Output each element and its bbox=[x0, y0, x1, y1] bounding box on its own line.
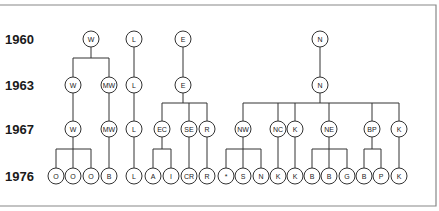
node-k76a: K bbox=[270, 168, 286, 184]
node-r67: R bbox=[199, 121, 215, 137]
node-label: BP bbox=[367, 126, 377, 133]
node-e63: E bbox=[175, 77, 191, 93]
node-b76b: B bbox=[304, 168, 320, 184]
genealogy-diagram: WLENWMWLENWMWLECSERNWNCKNEBPKOOOBLAICRR*… bbox=[0, 0, 439, 211]
year-label-1960: 1960 bbox=[5, 32, 34, 47]
node-label: N bbox=[317, 36, 322, 43]
node-label: I bbox=[170, 173, 172, 180]
node-label: EC bbox=[157, 126, 167, 133]
node-i76: I bbox=[163, 168, 179, 184]
node-label: K bbox=[293, 173, 298, 180]
node-label: B bbox=[362, 173, 367, 180]
node-label: P bbox=[379, 173, 384, 180]
node-label: SE bbox=[184, 126, 194, 133]
year-labels: 1960 1963 1967 1976 bbox=[5, 32, 34, 184]
node-g76: G bbox=[339, 168, 355, 184]
node-label: R bbox=[204, 173, 209, 180]
node-cr76: CR bbox=[181, 168, 197, 184]
node-nc67: NC bbox=[270, 121, 286, 137]
node-o76a: O bbox=[48, 168, 64, 184]
node-label: NE bbox=[324, 126, 334, 133]
node-label: MW bbox=[103, 126, 116, 133]
node-label: G bbox=[344, 173, 349, 180]
node-label: K bbox=[276, 173, 281, 180]
node-label: K bbox=[397, 173, 402, 180]
node-l60: L bbox=[126, 31, 142, 47]
node-b76a: B bbox=[101, 168, 117, 184]
node-label: W bbox=[70, 82, 77, 89]
node-label: NC bbox=[273, 126, 283, 133]
node-o76b: O bbox=[65, 168, 81, 184]
node-label: O bbox=[88, 173, 94, 180]
node-star76: * bbox=[218, 168, 234, 184]
node-e60: E bbox=[175, 31, 191, 47]
node-k76b: K bbox=[287, 168, 303, 184]
node-label: K bbox=[293, 126, 298, 133]
node-label: L bbox=[132, 126, 136, 133]
node-k67b: K bbox=[391, 121, 407, 137]
node-n63: N bbox=[312, 77, 328, 93]
node-p76: P bbox=[373, 168, 389, 184]
node-w63: W bbox=[65, 77, 81, 93]
node-nw67: NW bbox=[235, 121, 251, 137]
node-s76: S bbox=[235, 168, 251, 184]
node-label: L bbox=[132, 36, 136, 43]
nodes-layer: WLENWMWLENWMWLECSERNWNCKNEBPKOOOBLAICRR*… bbox=[48, 31, 407, 184]
node-l76: L bbox=[126, 168, 142, 184]
node-l67: L bbox=[126, 121, 142, 137]
node-ec67: EC bbox=[154, 121, 170, 137]
node-label: E bbox=[181, 82, 186, 89]
node-mw63: MW bbox=[101, 77, 117, 93]
node-k76c: K bbox=[391, 168, 407, 184]
node-label: E bbox=[181, 36, 186, 43]
node-label: L bbox=[132, 173, 136, 180]
node-label: B bbox=[327, 173, 332, 180]
node-b76d: B bbox=[356, 168, 372, 184]
node-n60: N bbox=[312, 31, 328, 47]
node-label: B bbox=[107, 173, 112, 180]
year-label-1967: 1967 bbox=[5, 122, 34, 137]
node-se67: SE bbox=[181, 121, 197, 137]
node-label: MW bbox=[103, 82, 116, 89]
node-r76: R bbox=[199, 168, 215, 184]
node-b76c: B bbox=[321, 168, 337, 184]
edges-layer bbox=[56, 47, 399, 168]
node-label: CR bbox=[184, 173, 194, 180]
node-label: O bbox=[70, 173, 76, 180]
node-label: W bbox=[70, 126, 77, 133]
node-k67a: K bbox=[287, 121, 303, 137]
node-label: NW bbox=[237, 126, 249, 133]
node-label: O bbox=[53, 173, 59, 180]
node-label: * bbox=[225, 173, 228, 180]
node-w67: W bbox=[65, 121, 81, 137]
year-label-1963: 1963 bbox=[5, 78, 34, 93]
node-label: R bbox=[204, 126, 209, 133]
node-l63: L bbox=[126, 77, 142, 93]
node-n76: N bbox=[253, 168, 269, 184]
node-label: K bbox=[397, 126, 402, 133]
node-label: W bbox=[88, 36, 95, 43]
year-label-1976: 1976 bbox=[5, 169, 34, 184]
node-ne67: NE bbox=[321, 121, 337, 137]
node-mw67: MW bbox=[101, 121, 117, 137]
node-label: B bbox=[310, 173, 315, 180]
node-bp67: BP bbox=[364, 121, 380, 137]
node-label: L bbox=[132, 82, 136, 89]
node-w60: W bbox=[83, 31, 99, 47]
node-label: N bbox=[317, 82, 322, 89]
node-o76c: O bbox=[83, 168, 99, 184]
node-a76: A bbox=[145, 168, 161, 184]
node-label: A bbox=[151, 173, 156, 180]
node-label: N bbox=[258, 173, 263, 180]
node-label: S bbox=[241, 173, 246, 180]
